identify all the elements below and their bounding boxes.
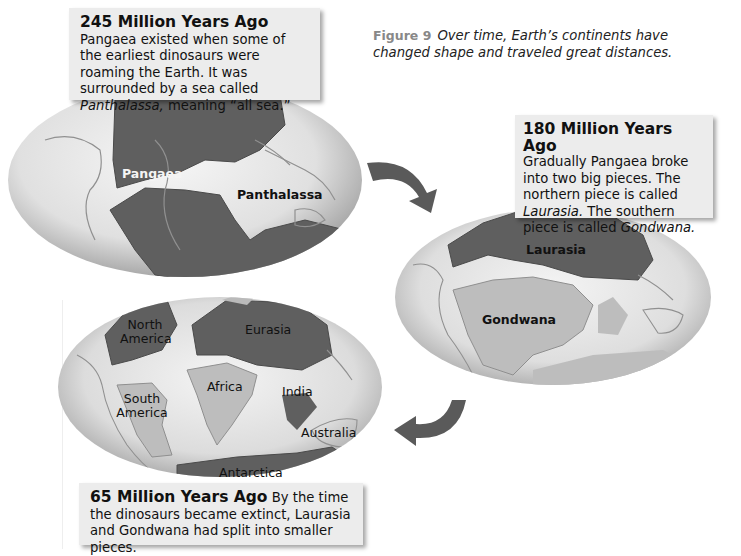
callout-text: meaning “all sea.” bbox=[164, 98, 291, 113]
callout-text-italic: Panthalassa, bbox=[80, 98, 164, 113]
caption-line-2: changed shape and traveled great distanc… bbox=[373, 45, 672, 60]
callout-title: 245 Million Years Ago bbox=[80, 13, 268, 31]
map-label-eurasia: Eurasia bbox=[245, 323, 291, 337]
callout-title: 65 Million Years Ago bbox=[90, 488, 268, 506]
map-label-north-america: North America bbox=[120, 318, 170, 346]
map-label-africa: Africa bbox=[207, 380, 243, 394]
callout-text-italic: Gondwana. bbox=[621, 220, 696, 235]
map-label-south-america: South America bbox=[116, 392, 168, 420]
callout-180-mya: 180 Million Years AgoGradually Pangaea b… bbox=[515, 115, 713, 218]
caption-line-1: Over time, Earth’s continents have bbox=[437, 28, 668, 43]
figure-number: Figure 9 bbox=[373, 28, 431, 43]
map-label-australia: Australia bbox=[301, 426, 356, 440]
callout-text: Pangaea existed when some of the earlies… bbox=[80, 32, 285, 97]
figure-caption: Figure 9Over time, Earth’s continents ha… bbox=[373, 27, 672, 61]
map-label-gondwana: Gondwana bbox=[482, 313, 556, 327]
map-label-antarctica: Antarctica bbox=[219, 466, 283, 480]
map-label-india: India bbox=[282, 385, 313, 399]
map-label-laurasia: Laurasia bbox=[526, 243, 586, 257]
callout-title: 180 Million Years Ago bbox=[523, 121, 705, 154]
map-label-pangaea: Pangaea bbox=[122, 167, 182, 181]
callout-245-mya: 245 Million Years Ago Pangaea existed wh… bbox=[69, 8, 320, 100]
callout-text-italic: Laurasia. bbox=[523, 204, 583, 219]
callout-text: Gradually Pangaea broke into two big pie… bbox=[523, 154, 688, 202]
map-label-panthalassa: Panthalassa bbox=[237, 188, 323, 202]
curved-arrow-down-left-icon bbox=[388, 398, 468, 452]
callout-65-mya: 65 Million Years Ago By the time the din… bbox=[79, 483, 363, 545]
